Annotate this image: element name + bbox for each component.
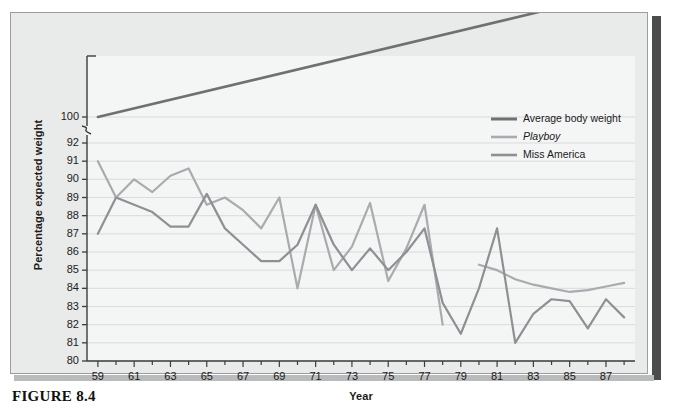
y-axis-tick-label: 100 <box>37 110 79 122</box>
x-axis-tick-label: 83 <box>521 370 545 382</box>
legend-item-label: Miss America <box>523 148 585 160</box>
x-axis-tick-label: 87 <box>594 370 618 382</box>
y-axis-tick-label: 81 <box>37 336 79 348</box>
y-axis-tick-label: 88 <box>37 209 79 221</box>
x-axis-tick-label: 79 <box>449 370 473 382</box>
y-axis-tick-label: 84 <box>37 281 79 293</box>
y-axis-tick-label: 85 <box>37 263 79 275</box>
y-axis-tick-label: 89 <box>37 191 79 203</box>
legend-item-label: Playboy <box>523 130 560 142</box>
x-axis-tick-label: 67 <box>231 370 255 382</box>
y-axis-tick-label: 92 <box>37 136 79 148</box>
x-axis-tick-label: 59 <box>86 370 110 382</box>
y-axis-tick-label: 86 <box>37 245 79 257</box>
line-chart <box>11 13 649 375</box>
figure-container: Percentage expected weight Year 80818283… <box>0 0 675 417</box>
y-axis-tick-label: 90 <box>37 172 79 184</box>
legend-item-label: Average body weight <box>523 112 621 124</box>
x-axis-tick-label: 69 <box>267 370 291 382</box>
x-axis-tick-label: 63 <box>158 370 182 382</box>
x-axis-tick-label: 85 <box>558 370 582 382</box>
y-axis-tick-label: 80 <box>37 354 79 366</box>
y-axis-tick-label: 83 <box>37 300 79 312</box>
figure-plate: Percentage expected weight Year 80818283… <box>10 12 648 374</box>
figure-caption: FIGURE 8.4 <box>12 388 96 405</box>
y-axis-tick-label: 82 <box>37 318 79 330</box>
x-axis-tick-label: 65 <box>195 370 219 382</box>
x-axis-tick-label: 71 <box>304 370 328 382</box>
plate-shadow-right <box>652 16 661 380</box>
x-axis-tick-label: 61 <box>122 370 146 382</box>
x-axis-tick-label: 77 <box>413 370 437 382</box>
x-axis-title: Year <box>311 390 411 402</box>
x-axis-tick-label: 75 <box>376 370 400 382</box>
y-axis-tick-label: 87 <box>37 227 79 239</box>
y-axis-tick-label: 91 <box>37 154 79 166</box>
x-axis-tick-label: 73 <box>340 370 364 382</box>
x-axis-tick-label: 81 <box>485 370 509 382</box>
